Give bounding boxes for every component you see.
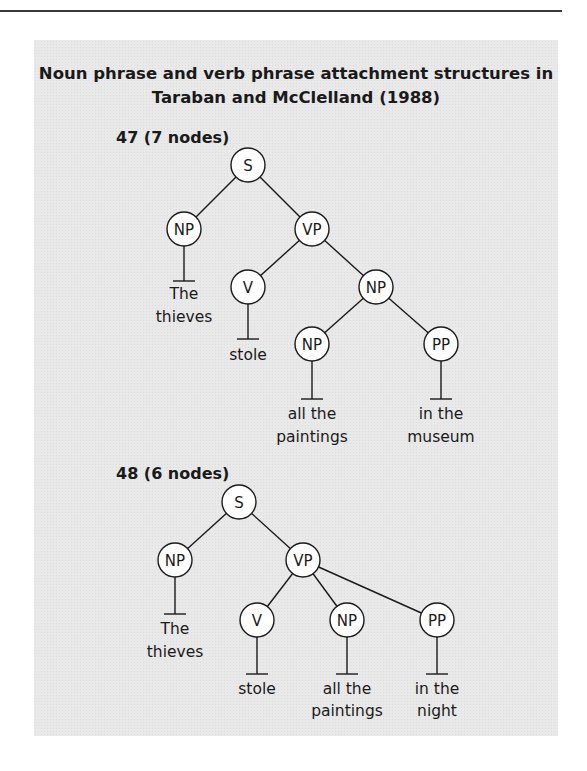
svg-text:VP: VP [293,552,312,570]
svg-text:S: S [243,157,253,175]
leaf-text: The [160,620,190,638]
tree-48-node-np-object: NP [330,603,364,637]
tree-48-node-s: S [222,485,256,519]
leaf-text: in the [419,405,464,423]
leaf-text: stole [238,680,275,698]
leaf-text: paintings [276,428,348,446]
leaf-text: all the [323,680,371,698]
svg-text:V: V [243,279,254,297]
svg-text:NP: NP [165,552,185,570]
svg-text:PP: PP [432,336,450,354]
svg-text:NP: NP [302,336,322,354]
leaf-text: museum [407,428,474,446]
tree-48-node-np: NP [158,543,192,577]
tree-47-edges [173,165,452,399]
leaf-text: all the [288,405,336,423]
parse-trees: S NP VP V NP NP PP The thieves stol [0,0,587,771]
leaf-text: stole [229,346,266,364]
tree-48-edges [164,502,448,674]
tree-48-node-v: V [240,603,274,637]
leaf-text: The [169,285,199,303]
tree-47-node-v: V [231,270,265,304]
leaf-text: paintings [311,702,383,720]
tree-47-node-s: S [231,148,265,182]
svg-text:PP: PP [428,612,446,630]
tree-48-node-vp: VP [286,543,320,577]
tree-47-leaves: The thieves stole all the paintings in t… [156,285,475,446]
svg-text:S: S [234,494,244,512]
leaf-text: in the [415,680,460,698]
tree-48-node-pp: PP [420,603,454,637]
tree-47-node-np-object: NP [359,270,393,304]
tree-47-node-pp: PP [424,327,458,361]
svg-text:NP: NP [174,221,194,239]
svg-text:NP: NP [366,279,386,297]
leaf-text: night [417,702,457,720]
tree-47-nodes: S NP VP V NP NP PP [167,148,458,361]
svg-text:V: V [252,612,263,630]
svg-text:VP: VP [302,221,321,239]
tree-48-nodes: S NP VP V NP PP [158,485,454,637]
tree-47-node-vp: VP [295,212,329,246]
tree-47-node-np-inner: NP [295,327,329,361]
leaf-text: thieves [147,643,204,661]
tree-47-node-np: NP [167,212,201,246]
svg-text:NP: NP [337,612,357,630]
tree-48-leaves: The thieves stole all the paintings in t… [147,620,460,720]
leaf-text: thieves [156,308,213,326]
